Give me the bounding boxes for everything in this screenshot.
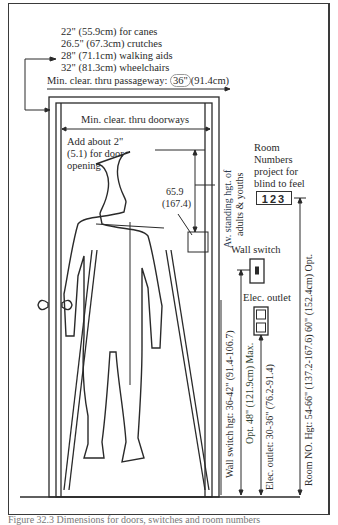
elec-outlet-label: Elec. outlet bbox=[243, 292, 291, 304]
figure-caption: Figure 32.3 Dimensions for doors, switch… bbox=[8, 514, 260, 525]
standing-height-label-1: Av. standing hgt. of bbox=[222, 170, 233, 248]
wall-switch-height-label: Wall switch hgt: 36-42" (91.4-106.7) bbox=[224, 330, 235, 478]
standing-height-metric: (167.4) bbox=[162, 198, 191, 210]
min-clear-doorways-label: Min. clear. thru doorways bbox=[81, 114, 189, 126]
room-numbers-line3: project for bbox=[254, 166, 298, 178]
room-number-height-label: Room NO. Hgt: 54-66" (137.2-167.6) 60" (… bbox=[303, 254, 314, 486]
room-numbers-line2: Numbers bbox=[254, 154, 293, 166]
wall-switch-label: Wall switch bbox=[231, 244, 281, 256]
room-number-sign: 123 bbox=[256, 191, 292, 205]
door-add-note-3: opening bbox=[67, 160, 101, 172]
outlet-height-label: Elec. outlet: 30-36" (76.2-91.4) bbox=[264, 364, 275, 490]
opt-max-height-label: Opt. 48" (121.9cm) Max. bbox=[244, 343, 255, 444]
door-add-note-1: Add about 2" bbox=[67, 136, 123, 148]
standing-height-label-2: adults & youths bbox=[234, 173, 245, 236]
door-add-note-2: (5.1) for door bbox=[67, 148, 124, 160]
room-numbers-line1: Room bbox=[254, 142, 280, 154]
room-numbers-line4: blind to feel bbox=[254, 178, 305, 190]
standing-height-value: 65.9 bbox=[166, 186, 184, 198]
